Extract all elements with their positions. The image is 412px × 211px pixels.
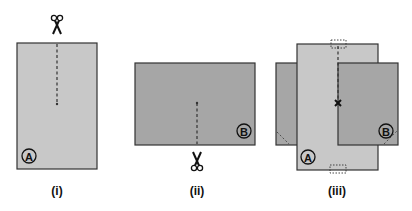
- piece-b-left: [276, 63, 298, 145]
- caption-i: (i): [51, 184, 62, 198]
- label-b: B: [382, 126, 390, 138]
- label-b: B: [240, 126, 248, 138]
- caption-ii: (ii): [190, 184, 205, 198]
- scissors-icon: [191, 152, 202, 171]
- figure-ii: B: [135, 63, 255, 171]
- caption-iii: (iii): [328, 184, 346, 198]
- figure-iii: A B: [276, 40, 398, 173]
- scissors-icon: [51, 15, 62, 34]
- label-a: A: [25, 151, 33, 163]
- label-a: A: [304, 152, 312, 164]
- diagram-canvas: A B A B: [0, 0, 412, 211]
- figure-i: A: [17, 15, 97, 169]
- cut-end-dot: [56, 103, 58, 105]
- cut-end-dot: [196, 102, 198, 104]
